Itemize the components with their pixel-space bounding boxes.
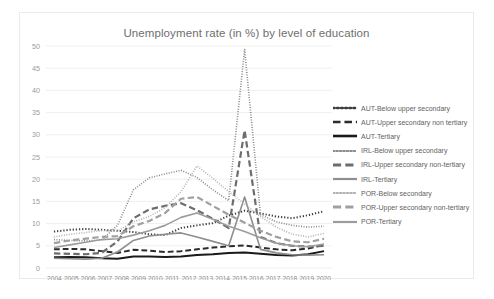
- series-line: [54, 50, 324, 241]
- legend-item[interactable]: IRL-Tertiary: [333, 172, 493, 186]
- legend-item[interactable]: AUT-Tertiary: [333, 129, 493, 143]
- legend-swatch-icon: [333, 131, 357, 141]
- legend-swatch-icon: [333, 146, 357, 156]
- legend-swatch-icon: [333, 117, 357, 127]
- y-axis-tick-label: 20: [32, 175, 40, 184]
- x-axis-tick-label: 2007: [98, 275, 113, 280]
- x-axis-tick-label: 2008: [114, 275, 129, 280]
- y-axis-tick-label: 0: [36, 264, 40, 273]
- legend-swatch-icon: [333, 103, 357, 113]
- y-axis-tick-label: 50: [32, 42, 40, 51]
- legend-label: IRL-Tertiary: [361, 176, 397, 183]
- x-axis-tick-label: 2018: [283, 275, 298, 280]
- y-axis-tick-label: 15: [32, 197, 40, 206]
- x-axis-tick-label: 2020: [316, 275, 331, 280]
- legend-item[interactable]: POR-Below secondary: [333, 186, 493, 200]
- x-axis-tick-label: 2019: [299, 275, 314, 280]
- x-axis-tick-label: 2004: [47, 275, 62, 280]
- legend-label: AUT-Upper secondary non tertiary: [361, 119, 467, 126]
- legend-label: IRL-Upper secondary non-tertiary: [361, 161, 465, 168]
- x-axis-tick-label: 2006: [81, 275, 96, 280]
- y-axis-tick-label: 45: [32, 64, 40, 73]
- legend-label: POR-Below secondary: [361, 190, 432, 197]
- y-axis-tick-label: 10: [32, 219, 40, 228]
- legend-label: POR-Tertiary: [361, 218, 401, 225]
- x-axis-tick-label: 2016: [249, 275, 264, 280]
- legend-item[interactable]: POR-Tertiary: [333, 215, 493, 229]
- legend-item[interactable]: AUT-Upper secondary non tertiary: [333, 115, 493, 129]
- chart-legend: AUT-Below upper secondaryAUT-Upper secon…: [333, 101, 493, 229]
- legend-label: AUT-Tertiary: [361, 133, 400, 140]
- x-axis-tick-label: 2009: [131, 275, 146, 280]
- x-axis-tick-label: 2015: [232, 275, 247, 280]
- series-line: [54, 213, 324, 248]
- legend-swatch-icon: [333, 202, 357, 212]
- y-axis-tick-label: 30: [32, 130, 40, 139]
- x-axis-tick-label: 2012: [182, 275, 197, 280]
- x-axis-tick-label: 2013: [198, 275, 213, 280]
- series-line: [54, 251, 324, 259]
- legend-item[interactable]: IRL-Upper secondary non-tertiary: [333, 158, 493, 172]
- y-axis-tick-label: 5: [36, 241, 40, 250]
- x-axis-tick-label: 2010: [148, 275, 163, 280]
- chart-container: Unemployment rate (in %) by level of edu…: [19, 12, 474, 279]
- legend-item[interactable]: IRL-Below upper secondary: [333, 144, 493, 158]
- series-line: [54, 197, 324, 243]
- legend-swatch-icon: [333, 217, 357, 227]
- legend-label: AUT-Below upper secondary: [361, 105, 450, 112]
- x-axis-tick-label: 2017: [266, 275, 281, 280]
- y-axis-tick-label: 35: [32, 108, 40, 117]
- x-axis-tick-label: 2014: [215, 275, 230, 280]
- y-axis-tick-label: 25: [32, 153, 40, 162]
- legend-label: POR-Upper secondary non-tertiary: [361, 204, 469, 211]
- legend-item[interactable]: POR-Upper secondary non-tertiary: [333, 200, 493, 214]
- legend-swatch-icon: [333, 188, 357, 198]
- legend-swatch-icon: [333, 174, 357, 184]
- x-axis-tick-label: 2011: [165, 275, 180, 280]
- x-axis-tick-label: 2005: [64, 275, 79, 280]
- y-axis-tick-label: 40: [32, 86, 40, 95]
- legend-item[interactable]: AUT-Below upper secondary: [333, 101, 493, 115]
- legend-label: IRL-Below upper secondary: [361, 147, 447, 154]
- legend-swatch-icon: [333, 160, 357, 170]
